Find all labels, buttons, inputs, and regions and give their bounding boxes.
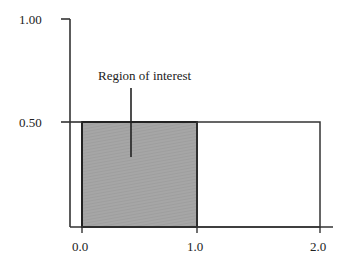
x-tick-label-1-0: 1.0 xyxy=(187,239,203,254)
x-tick-label-0-0: 0.0 xyxy=(72,239,88,254)
annotation-label: Region of interest xyxy=(98,68,192,83)
shaded-region xyxy=(82,122,197,227)
unshaded-region xyxy=(197,122,320,227)
y-tick-label-1-00: 1.00 xyxy=(19,12,42,27)
x-tick-label-2-0: 2.0 xyxy=(310,239,326,254)
y-tick-label-0-50: 0.50 xyxy=(19,115,42,130)
region-diagram: 1.00 0.50 0.0 1.0 2.0 Region of interest xyxy=(0,0,355,271)
